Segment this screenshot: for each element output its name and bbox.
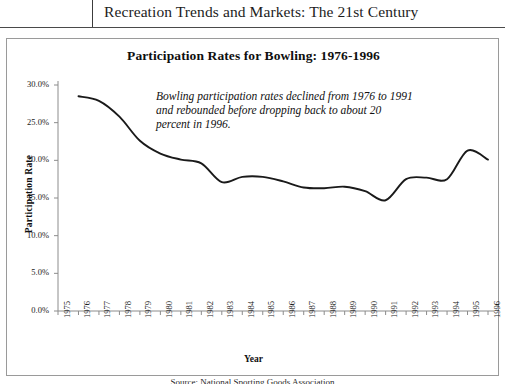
y-tick-label: 5.0%	[9, 267, 49, 277]
x-tick-label: 1991	[389, 301, 399, 318]
figure-caption: Source: National Sporting Goods Associat…	[0, 377, 505, 384]
x-tick-label: 1989	[348, 301, 358, 318]
header-divider	[0, 27, 505, 28]
page-title: Recreation Trends and Markets: The 21st …	[104, 3, 418, 21]
x-tick-label: 1990	[369, 301, 379, 318]
x-tick-label: 1977	[102, 301, 112, 318]
y-tick-label: 25.0%	[9, 117, 49, 127]
y-tick-label: 0.0%	[9, 305, 49, 315]
x-tick-label: 1981	[184, 301, 194, 318]
y-axis-label: Participation Rate	[24, 134, 34, 254]
x-tick-label: 1995	[471, 301, 481, 318]
chart-figure: Participation Rates for Bowling: 1976-19…	[6, 38, 499, 376]
x-tick-label: 1984	[246, 301, 256, 318]
x-tick-label: 1982	[205, 301, 215, 318]
y-tick-label: 30.0%	[9, 79, 49, 89]
x-tick-label: 1975	[62, 301, 72, 318]
x-tick-label: 1987	[307, 301, 317, 318]
x-tick-label: 1979	[143, 301, 153, 318]
x-tick-label: 1978	[123, 301, 133, 318]
x-tick-label: 1976	[82, 301, 92, 318]
chart-annotation: Bowling participation rates declined fro…	[156, 89, 416, 132]
x-tick-label: 1996	[492, 301, 502, 318]
x-tick-label: 1992	[410, 301, 420, 318]
x-axis-label: Year	[7, 354, 500, 364]
x-tick-label: 1986	[287, 301, 297, 318]
x-tick-label: 1993	[430, 301, 440, 318]
x-tick-label: 1985	[266, 301, 276, 318]
page-header: Recreation Trends and Markets: The 21st …	[0, 0, 505, 30]
x-tick-label: 1980	[164, 301, 174, 318]
x-tick-label: 1988	[328, 301, 338, 318]
x-tick-label: 1983	[225, 301, 235, 318]
x-tick-label: 1994	[451, 301, 461, 318]
